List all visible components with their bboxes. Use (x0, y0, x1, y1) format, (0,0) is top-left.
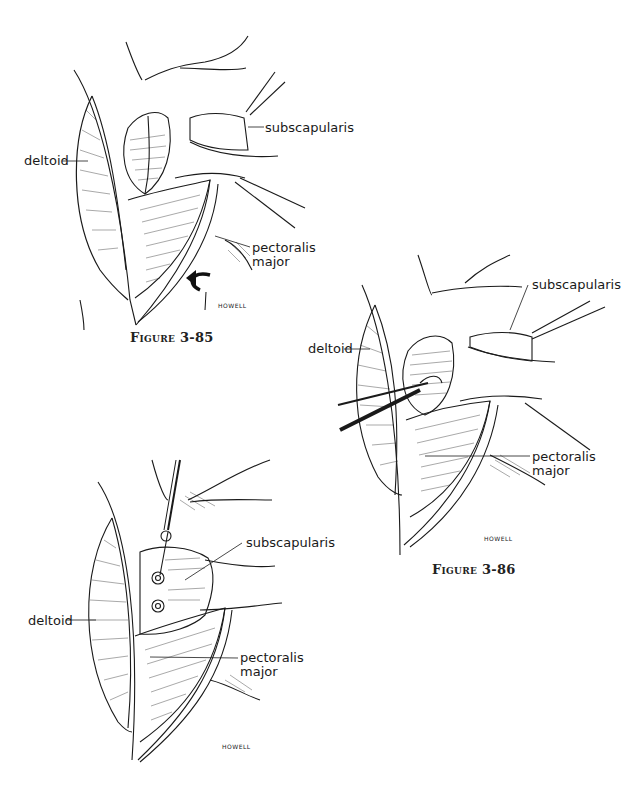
label-pectoralis: pectoralis (240, 650, 304, 665)
figure-3-85: subscapularis deltoid pectoralis major H… (0, 0, 340, 360)
figure-caption: Figure 3-85 (130, 330, 214, 345)
label-pectoralis: pectoralis (252, 240, 316, 255)
label-subscapularis: subscapularis (265, 120, 354, 135)
figure-3-87: subscapularis deltoid pectoralis major H… (0, 460, 340, 799)
figure-3-86: subscapularis deltoid pectoralis major H… (300, 255, 632, 585)
label-subscapularis: subscapularis (532, 277, 621, 292)
label-subscapularis: subscapularis (246, 535, 335, 550)
label-major: major (252, 254, 290, 269)
artist-signature: HOWELL (222, 743, 251, 750)
label-major: major (240, 664, 278, 679)
figure-caption: Figure 3-86 (432, 562, 516, 577)
label-pectoralis: pectoralis (532, 449, 596, 464)
label-deltoid: deltoid (308, 341, 353, 356)
label-deltoid: deltoid (24, 153, 69, 168)
surgical-illustration-shoulder-approach (300, 255, 632, 555)
label-major: major (532, 463, 570, 478)
label-deltoid: deltoid (28, 613, 73, 628)
surgical-illustration-shoulder-approach (0, 460, 340, 799)
artist-signature: HOWELL (218, 302, 247, 309)
rotation-arrow-icon (186, 270, 210, 310)
artist-signature: HOWELL (484, 535, 513, 542)
